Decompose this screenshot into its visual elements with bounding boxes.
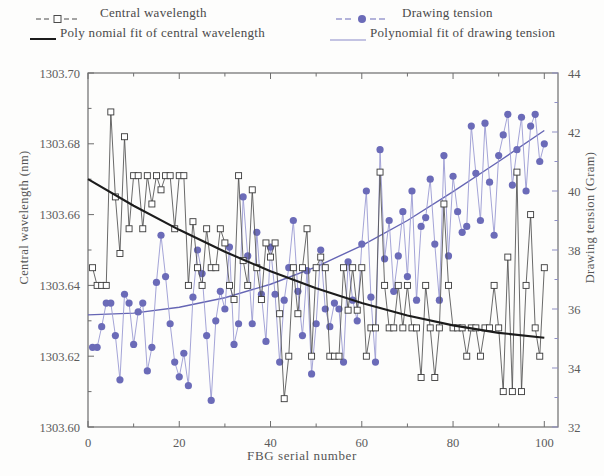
data-point-central-wavelength <box>158 187 164 193</box>
y-axis-left-tick-label: 1303.68 <box>39 137 80 151</box>
data-point-drawing-tension <box>500 131 507 138</box>
data-point-central-wavelength <box>528 212 534 218</box>
data-point-central-wavelength <box>309 353 315 359</box>
data-point-central-wavelength <box>445 282 451 288</box>
data-point-central-wavelength <box>153 173 159 179</box>
data-point-central-wavelength <box>122 134 128 140</box>
data-point-central-wavelength <box>491 282 497 288</box>
data-point-central-wavelength <box>149 201 155 207</box>
data-point-drawing-tension <box>240 193 247 200</box>
data-point-central-wavelength <box>281 396 287 402</box>
data-point-drawing-tension <box>135 308 142 315</box>
y-axis-left-tick-label: 1303.60 <box>39 421 80 435</box>
data-point-drawing-tension <box>262 338 269 345</box>
y-axis-right-tick-label: 32 <box>568 421 581 435</box>
data-point-central-wavelength <box>354 307 360 313</box>
data-point-drawing-tension <box>326 323 333 330</box>
y-axis-right-tick-label: 38 <box>568 244 581 258</box>
y-axis-left-tick-label: 1303.64 <box>39 279 80 293</box>
data-point-drawing-tension <box>449 173 456 180</box>
data-point-central-wavelength <box>272 240 278 246</box>
data-point-drawing-tension <box>445 252 452 259</box>
data-point-central-wavelength <box>372 325 378 331</box>
data-point-central-wavelength <box>199 282 205 288</box>
data-point-central-wavelength <box>432 374 438 380</box>
data-point-central-wavelength <box>304 226 310 232</box>
data-point-central-wavelength <box>108 109 114 115</box>
data-point-drawing-tension <box>235 320 242 327</box>
data-point-drawing-tension <box>381 255 388 262</box>
data-point-drawing-tension <box>436 297 443 304</box>
data-point-central-wavelength <box>359 265 365 271</box>
data-point-drawing-tension <box>189 294 196 301</box>
data-point-drawing-tension <box>331 300 338 307</box>
y-axis-left-tick-label: 1303.70 <box>39 67 80 81</box>
data-point-central-wavelength <box>167 173 173 179</box>
data-point-drawing-tension <box>532 111 539 118</box>
data-point-drawing-tension <box>413 297 420 304</box>
data-point-central-wavelength <box>217 226 223 232</box>
x-tick-label: 60 <box>356 436 369 450</box>
data-point-drawing-tension <box>472 170 479 177</box>
data-point-drawing-tension <box>477 217 484 224</box>
series-central-wavelength <box>90 109 548 402</box>
data-point-drawing-tension <box>468 123 475 130</box>
data-point-drawing-tension <box>130 341 137 348</box>
data-point-drawing-tension <box>363 187 370 194</box>
fit-line-central-wavelength <box>88 179 544 338</box>
data-point-drawing-tension <box>486 179 493 186</box>
data-point-central-wavelength <box>514 169 520 175</box>
data-point-central-wavelength <box>423 282 429 288</box>
data-point-central-wavelength <box>363 353 369 359</box>
data-point-drawing-tension <box>427 176 434 183</box>
data-point-drawing-tension <box>317 246 324 253</box>
data-point-drawing-tension <box>203 332 210 339</box>
data-point-central-wavelength <box>290 265 296 271</box>
data-point-drawing-tension <box>408 187 415 194</box>
data-point-drawing-tension <box>463 223 470 230</box>
data-point-drawing-tension <box>495 152 502 159</box>
data-point-drawing-tension <box>509 182 516 189</box>
data-point-drawing-tension <box>217 288 224 295</box>
data-point-central-wavelength <box>313 265 319 271</box>
data-point-central-wavelength <box>532 325 538 331</box>
data-point-central-wavelength <box>117 251 123 257</box>
data-point-drawing-tension <box>481 120 488 127</box>
series-fit-central-wavelength <box>88 179 544 338</box>
data-point-central-wavelength <box>181 173 187 179</box>
data-point-central-wavelength <box>541 265 547 271</box>
data-point-central-wavelength <box>496 325 502 331</box>
data-point-central-wavelength <box>144 173 150 179</box>
data-point-drawing-tension <box>176 373 183 380</box>
data-point-drawing-tension <box>504 111 511 118</box>
y-axis-left-ticks: 1303.601303.621303.641303.661303.681303.… <box>39 67 94 435</box>
data-point-central-wavelength <box>226 282 232 288</box>
data-point-central-wavelength <box>509 389 515 395</box>
data-point-central-wavelength <box>103 282 109 288</box>
y-axis-left-tick-label: 1303.62 <box>39 350 80 364</box>
data-point-central-wavelength <box>140 226 146 232</box>
data-point-central-wavelength <box>377 169 383 175</box>
data-point-central-wavelength <box>341 265 347 271</box>
data-point-central-wavelength <box>135 173 141 179</box>
data-point-drawing-tension <box>358 241 365 248</box>
data-point-drawing-tension <box>194 246 201 253</box>
data-point-drawing-tension <box>116 376 123 383</box>
y-axis-right-tick-label: 36 <box>568 303 581 317</box>
data-point-drawing-tension <box>157 232 164 239</box>
data-point-drawing-tension <box>162 273 169 280</box>
data-point-drawing-tension <box>422 214 429 221</box>
data-point-central-wavelength <box>418 374 424 380</box>
data-point-drawing-tension <box>230 341 237 348</box>
data-point-central-wavelength <box>382 282 388 288</box>
data-point-drawing-tension <box>418 223 425 230</box>
data-point-drawing-tension <box>454 208 461 215</box>
data-point-central-wavelength <box>345 307 351 313</box>
data-point-drawing-tension <box>536 158 543 165</box>
data-point-central-wavelength <box>519 389 525 395</box>
data-point-central-wavelength <box>537 353 543 359</box>
data-point-drawing-tension <box>281 297 288 304</box>
data-point-drawing-tension <box>491 232 498 239</box>
x-tick-label: 40 <box>264 436 277 450</box>
y-axis-right-tick-label: 34 <box>568 362 581 376</box>
